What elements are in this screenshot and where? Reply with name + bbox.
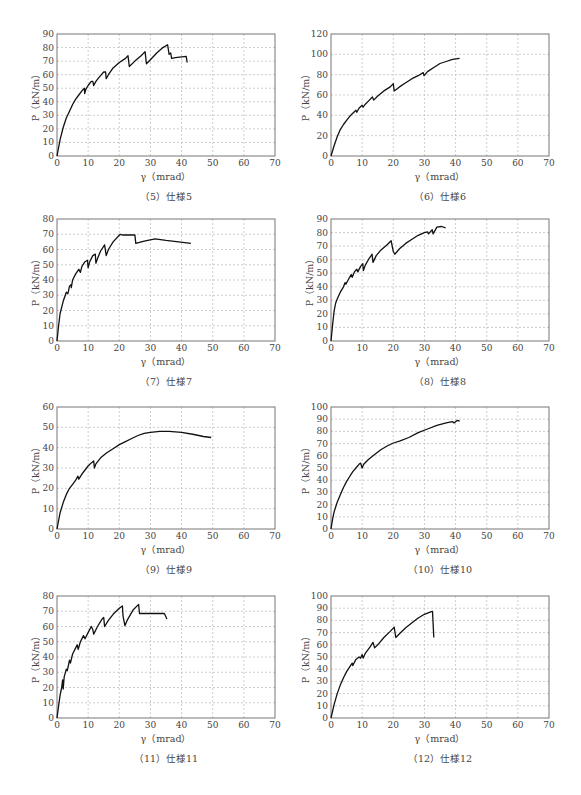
y-axis-label: P（kN/m） <box>28 631 42 684</box>
y-tick-label: 30 <box>43 463 55 473</box>
x-tick-label: 20 <box>114 158 126 168</box>
x-axis-label: γ（mrad） <box>415 542 466 556</box>
y-tick-label: 0 <box>48 524 54 534</box>
plot-area: 0102030405060700102030405060708090100 <box>331 407 549 529</box>
chart-panel-9: 0102030405060700102030405060 <box>57 407 275 529</box>
y-tick-label: 10 <box>43 321 55 331</box>
y-tick-label: 100 <box>311 591 328 601</box>
x-tick-label: 70 <box>269 343 281 353</box>
figure-caption: （9）仕様9 <box>140 562 192 576</box>
x-tick-label: 0 <box>54 531 60 541</box>
y-tick-label: 20 <box>317 689 329 699</box>
y-axis-label: P（kN/m） <box>302 254 316 307</box>
y-tick-label: 10 <box>43 504 55 514</box>
y-tick-label: 0 <box>48 713 54 723</box>
x-tick-label: 40 <box>176 531 188 541</box>
x-tick-label: 60 <box>512 343 524 353</box>
figure-caption: （7）仕様7 <box>140 374 192 388</box>
plot-area: 01020304050607001020304050607080 <box>57 219 275 341</box>
y-tick-label: 30 <box>317 295 329 305</box>
chart-panel-12: 0102030405060700102030405060708090100 <box>331 596 549 718</box>
x-tick-label: 50 <box>481 531 493 541</box>
y-tick-label: 70 <box>317 439 329 449</box>
y-axis-label: P（kN/m） <box>298 69 312 122</box>
y-tick-label: 40 <box>317 475 329 485</box>
y-tick-label: 60 <box>317 255 329 265</box>
x-axis-label: γ（mrad） <box>415 731 466 745</box>
y-tick-label: 30 <box>43 110 55 120</box>
y-tick-label: 0 <box>322 151 328 161</box>
x-tick-label: 70 <box>543 531 555 541</box>
y-tick-label: 20 <box>317 131 329 141</box>
y-tick-label: 100 <box>311 49 328 59</box>
chart-panel-6: 010203040506070020406080100120 <box>331 34 549 156</box>
y-tick-label: 70 <box>43 56 55 66</box>
x-tick-label: 0 <box>328 158 334 168</box>
y-tick-label: 70 <box>317 241 329 251</box>
x-tick-label: 20 <box>388 158 400 168</box>
x-tick-label: 30 <box>145 343 157 353</box>
x-tick-label: 70 <box>543 343 555 353</box>
y-tick-label: 100 <box>311 402 328 412</box>
y-tick-label: 80 <box>43 43 55 53</box>
chart-panel-8: 0102030405060700102030405060708090 <box>331 219 549 341</box>
x-tick-label: 60 <box>238 531 250 541</box>
y-tick-label: 40 <box>317 664 329 674</box>
x-tick-label: 0 <box>328 531 334 541</box>
x-tick-label: 40 <box>450 531 462 541</box>
y-tick-label: 70 <box>317 628 329 638</box>
x-tick-label: 60 <box>512 720 524 730</box>
figure-caption: （5）仕様5 <box>140 189 192 203</box>
x-tick-label: 0 <box>54 158 60 168</box>
x-tick-label: 60 <box>512 531 524 541</box>
y-tick-label: 90 <box>317 603 329 613</box>
data-series-line <box>57 234 191 341</box>
plot-frame <box>57 34 275 156</box>
y-axis-label: P（kN/m） <box>298 442 312 495</box>
figure-caption: （11）仕様11 <box>134 751 198 765</box>
y-tick-label: 30 <box>317 676 329 686</box>
chart-panel-10: 0102030405060700102030405060708090100 <box>331 407 549 529</box>
x-tick-label: 40 <box>450 343 462 353</box>
y-tick-label: 90 <box>317 414 329 424</box>
x-tick-label: 30 <box>419 343 431 353</box>
y-tick-label: 50 <box>43 260 55 270</box>
y-tick-label: 50 <box>317 268 329 278</box>
gridlines <box>331 219 549 341</box>
x-tick-label: 70 <box>543 158 555 168</box>
figure-caption: （6）仕様6 <box>414 189 466 203</box>
x-tick-label: 60 <box>238 343 250 353</box>
x-tick-label: 40 <box>450 158 462 168</box>
x-tick-label: 70 <box>269 720 281 730</box>
data-series-line <box>331 58 460 156</box>
x-tick-label: 30 <box>145 158 157 168</box>
y-tick-label: 20 <box>43 124 55 134</box>
figure-caption: （8）仕様8 <box>414 374 466 388</box>
plot-area: 010203040506070020406080100120 <box>331 34 549 156</box>
y-tick-label: 40 <box>43 443 55 453</box>
x-tick-label: 20 <box>388 720 400 730</box>
x-axis-label: γ（mrad） <box>141 542 192 556</box>
x-tick-label: 10 <box>82 158 94 168</box>
data-series-line <box>331 611 434 718</box>
gridlines <box>57 596 275 718</box>
y-tick-label: 80 <box>317 228 329 238</box>
x-tick-label: 30 <box>145 531 157 541</box>
x-tick-label: 20 <box>114 531 126 541</box>
y-axis-label: P（kN/m） <box>28 69 42 122</box>
x-tick-label: 0 <box>328 343 334 353</box>
y-tick-label: 60 <box>43 622 55 632</box>
y-tick-label: 50 <box>43 637 55 647</box>
y-tick-label: 10 <box>43 698 55 708</box>
x-tick-label: 20 <box>114 720 126 730</box>
data-series-line <box>331 227 446 342</box>
figure-caption: （10）仕様10 <box>408 562 472 576</box>
x-tick-label: 10 <box>356 343 368 353</box>
y-tick-label: 90 <box>317 214 329 224</box>
x-tick-label: 50 <box>207 531 219 541</box>
y-tick-label: 60 <box>317 640 329 650</box>
x-tick-label: 30 <box>419 720 431 730</box>
y-tick-label: 50 <box>317 652 329 662</box>
y-tick-label: 120 <box>311 29 328 39</box>
x-tick-label: 40 <box>176 343 188 353</box>
